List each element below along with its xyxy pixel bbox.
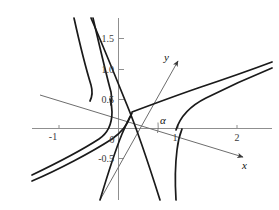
y-tick-label--0p5: -0.5 [98, 153, 114, 164]
curve-steep-descending [91, 18, 160, 200]
hyperbola-curves [32, 18, 272, 200]
x-tick-label--1: -1 [49, 131, 57, 142]
curve-right-outer [132, 62, 272, 112]
y-tick-label-0p5: 0.5 [102, 94, 115, 105]
rotated-axes-plot: -1 0 1 2 1.5 1.0 0.5 -0.5 y x α [0, 0, 279, 210]
y-tick-label-1p0: 1.0 [102, 64, 115, 75]
origin-label: 0 [110, 134, 115, 145]
alpha-arc-path [158, 123, 159, 134]
curve-right-inner [176, 68, 272, 130]
x-tick-label-1: 1 [173, 132, 178, 143]
angle-alpha-label: α [160, 114, 166, 126]
rotated-axes [40, 61, 243, 200]
rotated-x-axis-label: x [241, 159, 247, 171]
rotated-y-axis-line [100, 61, 178, 200]
angle-alpha-arc [158, 123, 159, 134]
figure-root: -1 0 1 2 1.5 1.0 0.5 -0.5 y x α [0, 0, 279, 210]
x-tick-label-2: 2 [235, 132, 240, 143]
rotated-y-axis-label: y [163, 51, 169, 63]
curve-upper-left-outer [74, 18, 92, 101]
y-tick-label-1p5: 1.5 [102, 33, 115, 44]
